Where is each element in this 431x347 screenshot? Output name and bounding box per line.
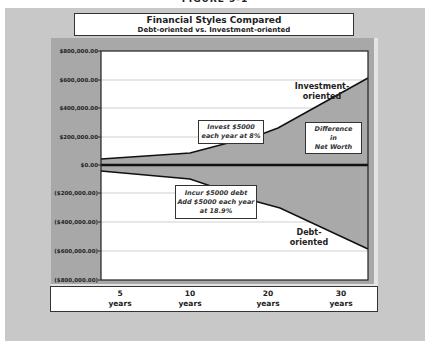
- x-tick-number: 10: [178, 289, 201, 299]
- debt-note: Incur $5000 debt Add $5000 each year at …: [175, 185, 257, 219]
- debt-note-line: at 18.9%: [176, 207, 256, 216]
- debt-note-line: Incur $5000 debt: [176, 189, 256, 198]
- invest-note: Invest $5000 each year at 8%: [198, 120, 264, 144]
- x-tick-unit: years: [178, 299, 201, 309]
- difference-note: Difference in Net Worth: [305, 122, 362, 154]
- investment-label-line: oriented: [287, 92, 357, 102]
- investment-label-line: Investment-: [287, 82, 357, 92]
- invest-note-line: each year at 8%: [199, 132, 263, 141]
- debt-label-line: oriented: [284, 238, 334, 248]
- difference-note-line: Net Worth: [306, 143, 361, 152]
- x-tick-30: 30 years: [329, 289, 352, 309]
- x-tick-number: 20: [256, 289, 279, 299]
- investment-series-label: Investment- oriented: [287, 82, 357, 102]
- x-tick-unit: years: [256, 299, 279, 309]
- debt-note-line: Add $5000 each year: [176, 198, 256, 207]
- invest-note-line: Invest $5000: [199, 123, 263, 132]
- difference-note-line: Difference: [306, 125, 361, 134]
- x-tick-number: 30: [329, 289, 352, 299]
- debt-label-line: Debt-: [284, 228, 334, 238]
- x-tick-20: 20 years: [256, 289, 279, 309]
- x-axis-box: 5 years 10 years 20 years 30 years: [50, 286, 378, 312]
- difference-note-line: in: [306, 134, 361, 143]
- x-tick-number: 5: [108, 289, 131, 299]
- x-tick-5: 5 years: [108, 289, 131, 309]
- x-tick-unit: years: [329, 299, 352, 309]
- debt-series-label: Debt- oriented: [284, 228, 334, 248]
- x-tick-unit: years: [108, 299, 131, 309]
- x-tick-10: 10 years: [178, 289, 201, 309]
